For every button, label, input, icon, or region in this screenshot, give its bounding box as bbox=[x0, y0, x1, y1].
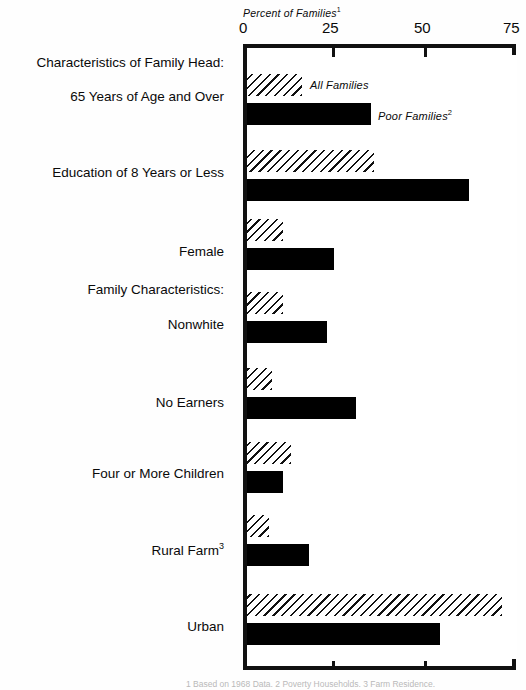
bar-poor-families-urban bbox=[247, 623, 440, 645]
bar-all-families-female bbox=[247, 219, 283, 241]
bar-all-families-four-children bbox=[247, 442, 291, 464]
axis-title: Percent of Families1 bbox=[243, 6, 341, 19]
axis-tick-bottom-50 bbox=[424, 661, 427, 670]
bar-all-families-age-65 bbox=[247, 74, 302, 96]
x-tick-label-50: 50 bbox=[414, 19, 431, 36]
x-tick-label-75: 75 bbox=[503, 19, 520, 36]
frame-cap-bottom-right bbox=[512, 659, 516, 670]
legend-label-all-families: All Families bbox=[310, 79, 369, 91]
section-heading-family-characteristics: Family Characteristics: bbox=[87, 282, 224, 297]
bar-all-families-nonwhite bbox=[247, 292, 283, 314]
frame-right-gap bbox=[512, 52, 517, 660]
bar-poor-families-no-earners bbox=[247, 397, 356, 419]
bar-poor-families-age-65 bbox=[247, 103, 371, 125]
axis-title-footnote-marker: 1 bbox=[337, 6, 341, 13]
bar-poor-families-rural-farm bbox=[247, 544, 309, 566]
category-label-female: Female bbox=[179, 244, 224, 259]
plot-area bbox=[243, 44, 516, 670]
bar-all-families-rural-farm bbox=[247, 515, 269, 537]
category-label-rural-farm: Rural Farm3 bbox=[151, 541, 224, 558]
axis-tick-top-25 bbox=[332, 48, 335, 57]
rural-farm-footnote-marker: 3 bbox=[219, 541, 224, 551]
chart-footnote: 1 Based on 1968 Data. 2 Poverty Househol… bbox=[186, 679, 435, 689]
category-label-nonwhite: Nonwhite bbox=[168, 317, 224, 332]
legend-label-poor-families-text: Poor Families bbox=[378, 110, 448, 122]
category-label-four-children: Four or More Children bbox=[92, 466, 224, 481]
category-label-education: Education of 8 Years or Less bbox=[52, 165, 224, 180]
bar-poor-families-education bbox=[247, 179, 469, 201]
bar-all-families-education bbox=[247, 150, 374, 172]
chart-root: Percent of Families1 0 25 50 75 Characte… bbox=[0, 0, 526, 690]
legend-label-poor-families: Poor Families2 bbox=[378, 108, 452, 122]
category-label-age-65: 65 Years of Age and Over bbox=[70, 89, 224, 104]
category-label-urban: Urban bbox=[187, 619, 224, 634]
bar-poor-families-female bbox=[247, 248, 334, 270]
category-label-no-earners: No Earners bbox=[156, 395, 224, 410]
bar-all-families-urban bbox=[247, 594, 502, 616]
frame-cap-top-right bbox=[512, 44, 516, 55]
x-tick-label-0: 0 bbox=[239, 19, 247, 36]
x-tick-label-25: 25 bbox=[322, 19, 339, 36]
axis-tick-bottom-25 bbox=[332, 661, 335, 670]
bar-poor-families-nonwhite bbox=[247, 321, 327, 343]
axis-tick-top-50 bbox=[424, 48, 427, 57]
poor-families-footnote-marker: 2 bbox=[448, 108, 452, 117]
bar-all-families-no-earners bbox=[247, 368, 272, 390]
bar-poor-families-four-children bbox=[247, 471, 283, 493]
axis-title-text: Percent of Families bbox=[243, 7, 337, 19]
section-heading-family-head: Characteristics of Family Head: bbox=[36, 55, 224, 70]
category-label-rural-farm-text: Rural Farm bbox=[151, 543, 219, 558]
